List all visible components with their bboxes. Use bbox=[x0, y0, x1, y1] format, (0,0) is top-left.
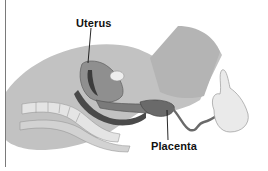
diagram-canvas: Uterus Placenta bbox=[0, 0, 268, 171]
label-placenta: Placenta bbox=[151, 141, 197, 152]
bladder bbox=[110, 71, 124, 81]
fetus-hand bbox=[212, 70, 248, 132]
label-uterus: Uterus bbox=[76, 18, 111, 29]
anatomy-illustration bbox=[0, 0, 268, 171]
upper-tissue-block bbox=[150, 26, 220, 98]
